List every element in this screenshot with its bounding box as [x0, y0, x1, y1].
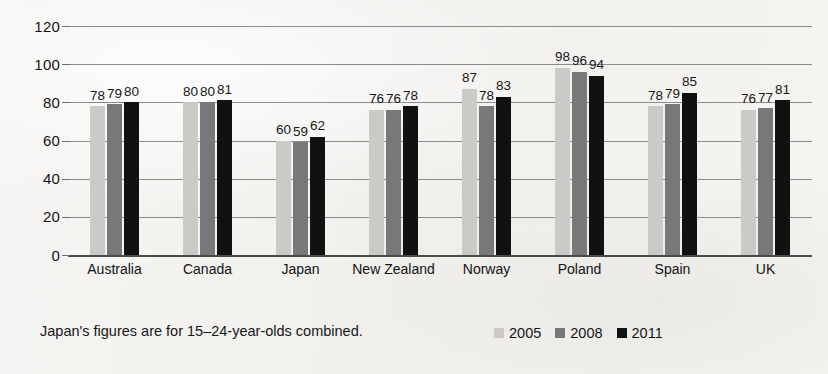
y-axis: 020406080100120	[18, 0, 60, 290]
bar-chart: 020406080100120 787980Australia808081Can…	[0, 0, 828, 290]
bar-group: 787980	[90, 26, 139, 255]
bar-value-label: 78	[398, 89, 424, 103]
y-axis-tick-label: 60	[18, 133, 60, 148]
bar[interactable]	[200, 102, 215, 255]
bar[interactable]	[555, 68, 570, 255]
bar[interactable]	[462, 89, 477, 255]
bar[interactable]	[369, 110, 384, 255]
bar-group: 605962	[276, 26, 325, 255]
x-axis-category-label: UK	[719, 262, 812, 276]
y-axis-tick-label: 100	[18, 57, 60, 72]
legend-label: 2008	[570, 326, 602, 341]
x-axis-category-label: Spain	[626, 262, 719, 276]
bar[interactable]	[107, 104, 122, 255]
bar[interactable]	[183, 102, 198, 255]
bar[interactable]	[124, 102, 139, 255]
bar[interactable]	[496, 97, 511, 255]
bar[interactable]	[589, 76, 604, 255]
y-axis-tick-label: 80	[18, 95, 60, 110]
chart-footnote: Japan's figures are for 15–24-year-olds …	[40, 322, 363, 340]
bar-group: 877883	[462, 26, 511, 255]
legend-item[interactable]: 2008	[555, 326, 602, 341]
x-axis-category-label: Japan	[254, 262, 347, 276]
y-axis-tick-label: 40	[18, 171, 60, 186]
bar-group: 767781	[741, 26, 790, 255]
bar[interactable]	[758, 108, 773, 255]
bar[interactable]	[665, 104, 680, 255]
legend-swatch-icon	[617, 328, 627, 338]
bar[interactable]	[682, 93, 697, 255]
bar[interactable]	[403, 106, 418, 255]
x-axis-category-label: New Zealand	[347, 262, 440, 276]
bar-group: 989694	[555, 26, 604, 255]
x-axis-category-label: Canada	[161, 262, 254, 276]
bar[interactable]	[293, 142, 308, 255]
bar[interactable]	[386, 110, 401, 255]
legend-item[interactable]: 2011	[617, 326, 663, 341]
plot-area: 787980Australia808081Canada605962Japan76…	[68, 0, 812, 290]
bar[interactable]	[741, 110, 756, 255]
legend-swatch-icon	[494, 328, 504, 338]
bar-group: 767678	[369, 26, 418, 255]
y-axis-tick-label: 20	[18, 209, 60, 224]
bar[interactable]	[90, 106, 105, 255]
x-axis-category-label: Australia	[68, 262, 161, 276]
legend-label: 2005	[509, 326, 541, 341]
bar-group: 787985	[648, 26, 697, 255]
bar[interactable]	[648, 106, 663, 255]
bar[interactable]	[479, 106, 494, 255]
bar-value-label: 83	[491, 79, 517, 93]
x-axis-category-label: Poland	[533, 262, 626, 276]
bar[interactable]	[310, 137, 325, 255]
legend-item[interactable]: 2005	[494, 326, 541, 341]
chart-legend: 200520082011	[494, 326, 663, 341]
y-axis-tick-label: 0	[18, 248, 60, 263]
bar[interactable]	[775, 100, 790, 255]
bar[interactable]	[572, 72, 587, 255]
bar-value-label: 94	[584, 58, 610, 72]
bar[interactable]	[276, 141, 291, 256]
bar-value-label: 80	[119, 85, 145, 99]
bar[interactable]	[217, 100, 232, 255]
bar-value-label: 81	[770, 83, 796, 97]
legend-swatch-icon	[555, 328, 565, 338]
y-axis-tick-label: 120	[18, 19, 60, 34]
legend-label: 2011	[632, 326, 663, 341]
x-axis-category-label: Norway	[440, 262, 533, 276]
bar-value-label: 87	[457, 71, 483, 85]
bar-value-label: 81	[212, 83, 238, 97]
bar-value-label: 85	[677, 75, 703, 89]
bar-value-label: 62	[305, 119, 331, 133]
bar-group: 808081	[183, 26, 232, 255]
